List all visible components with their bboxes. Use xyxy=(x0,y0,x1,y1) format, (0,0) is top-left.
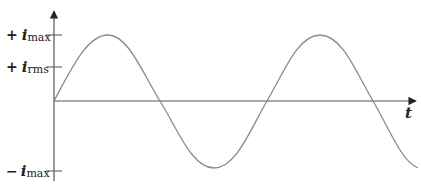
label-minus-imax: −imax xyxy=(6,162,50,180)
label-plus-imax: +imax xyxy=(6,26,51,44)
ac-current-diagram: +imax +irms −imax t xyxy=(0,0,421,185)
label-t-axis: t xyxy=(405,104,412,122)
label-plus-irms: +irms xyxy=(6,58,49,76)
